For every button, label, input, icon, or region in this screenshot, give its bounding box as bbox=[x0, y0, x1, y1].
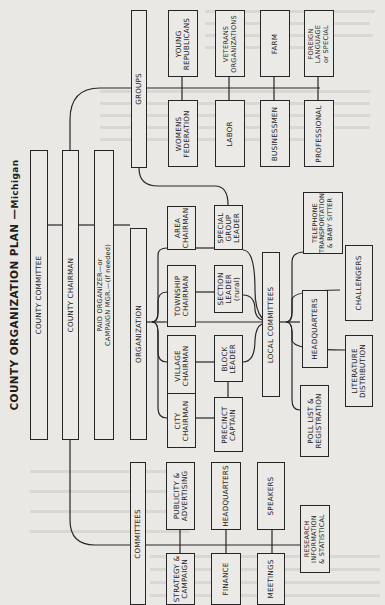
local-challengers-box: CHALLENGERS bbox=[345, 245, 373, 321]
county-chairman-label: COUNTY CHAIRMAN bbox=[67, 258, 75, 332]
chart-title: COUNTY ORGANIZATION PLAN —Michigan bbox=[8, 159, 20, 410]
organization-label: ORGANIZATION bbox=[135, 305, 143, 363]
township-chairman-box: TOWNSHIP CHAIRMAN bbox=[167, 265, 196, 327]
precinct-captain-box: PRECINCT CAPTAIN bbox=[214, 397, 243, 452]
group-label: WOMENS FEDERATION bbox=[175, 110, 191, 157]
city-chairman-box: CITY CHAIRMAN bbox=[167, 393, 196, 448]
chairman-label: AREA CHAIRMAN bbox=[174, 208, 190, 249]
group-professional: PROFESSIONAL bbox=[304, 100, 334, 167]
local-committees-box: LOCAL COMMITTEES bbox=[262, 252, 280, 397]
county-committee-box: COUNTY COMMITTEE bbox=[30, 150, 48, 440]
group-businessmen: BUSINESSMEN bbox=[260, 100, 290, 167]
committee-finance: FINANCE bbox=[211, 553, 241, 605]
block-leader-box: BLOCK LEADER bbox=[214, 335, 243, 382]
groups-box: GROUPS bbox=[131, 10, 147, 168]
local-literature-box: LITERATURE DISTRIBUTION bbox=[345, 335, 373, 407]
group-label: BUSINESSMEN bbox=[271, 106, 279, 160]
leader-label: PRECINCT CAPTAIN bbox=[221, 406, 237, 443]
group-label: VETERANS ORGANIZATIONS bbox=[222, 15, 238, 73]
group-label: YOUNG REPUBLICANS bbox=[175, 17, 191, 69]
section-leader-box: SECTION LEADER (rural) bbox=[214, 265, 243, 313]
local-poll-list-box: POLL LIST & REGISTRATION bbox=[300, 385, 329, 457]
chairman-label: CITY CHAIRMAN bbox=[174, 400, 190, 441]
area-chairman-box: AREA CHAIRMAN bbox=[167, 206, 196, 250]
local-committees-label: LOCAL COMMITTEES bbox=[267, 286, 275, 362]
committee-publicity: PUBLICITY & ADVERTISING bbox=[166, 462, 195, 530]
group-young-republicans: YOUNG REPUBLICANS bbox=[168, 10, 198, 77]
committee-label: STRATEGY & CAMPAIGN bbox=[173, 556, 189, 602]
local-item-label: HEADQUARTERS bbox=[311, 298, 319, 360]
local-item-label: LITERATURE DISTRIBUTION bbox=[351, 344, 367, 398]
leader-label: SPECIAL GROUP LEADER bbox=[217, 212, 241, 243]
group-farm: FARM bbox=[260, 10, 290, 77]
organization-box: ORGANIZATION bbox=[130, 228, 147, 440]
local-telephone-box: TELEPHONE TRANSPORTATION & BABY SITTER bbox=[303, 192, 343, 254]
group-womens-federation: WOMENS FEDERATION bbox=[168, 100, 198, 167]
committee-research: RESEARCH INFORMATION & STATISTICAL bbox=[300, 505, 330, 573]
committee-label: FINANCE bbox=[222, 563, 230, 596]
group-labor: LABOR bbox=[215, 100, 245, 167]
committee-label: HEADQUARTERS bbox=[222, 465, 230, 527]
local-item-label: TELEPHONE TRANSPORTATION & BABY SITTER bbox=[312, 193, 334, 253]
leader-label: SECTION LEADER (rural) bbox=[217, 272, 241, 305]
special-group-leader-box: SPECIAL GROUP LEADER bbox=[214, 205, 243, 250]
title-state: Michigan bbox=[10, 159, 20, 208]
committees-box: COMMITTEES bbox=[130, 462, 146, 605]
title-main: COUNTY ORGANIZATION PLAN bbox=[8, 223, 20, 410]
paid-organizer-box: PAID ORGANIZER—or CAMPAIGN MGR.—(if need… bbox=[94, 150, 114, 440]
chairman-label: VILLAGE CHAIRMAN bbox=[174, 346, 190, 387]
county-committee-label: COUNTY COMMITTEE bbox=[35, 256, 43, 335]
village-chairman-box: VILLAGE CHAIRMAN bbox=[167, 335, 196, 397]
committee-meetings: MEETINGS bbox=[257, 553, 285, 605]
local-headquarters-box: HEADQUARTERS bbox=[302, 290, 328, 368]
groups-label: GROUPS bbox=[135, 73, 143, 105]
committees-label: COMMITTEES bbox=[134, 509, 142, 559]
committee-label: SPEAKERS bbox=[267, 477, 275, 516]
committee-label: PUBLICITY & ADVERTISING bbox=[173, 471, 189, 522]
paid-organizer-label: PAID ORGANIZER—or CAMPAIGN MGR.—(if need… bbox=[97, 244, 112, 346]
group-foreign-language: FOREIGN LANGUAGE or SPECIAL bbox=[304, 10, 334, 77]
committee-label: RESEARCH INFORMATION & STATISTICAL bbox=[304, 514, 326, 564]
chairman-label: TOWNSHIP CHAIRMAN bbox=[174, 276, 190, 317]
title-dash: — bbox=[8, 208, 20, 219]
committee-strategy: STRATEGY & CAMPAIGN bbox=[166, 553, 195, 605]
county-chairman-box: COUNTY CHAIRMAN bbox=[62, 150, 79, 440]
group-label: FARM bbox=[271, 33, 279, 53]
committee-headquarters: HEADQUARTERS bbox=[211, 462, 241, 530]
group-label: FOREIGN LANGUAGE or SPECIAL bbox=[308, 24, 330, 62]
group-label: PROFESSIONAL bbox=[315, 105, 323, 162]
group-veterans-organizations: VETERANS ORGANIZATIONS bbox=[215, 10, 245, 77]
committee-label: MEETINGS bbox=[267, 560, 275, 599]
local-item-label: CHALLENGERS bbox=[355, 255, 363, 310]
local-item-label: POLL LIST & REGISTRATION bbox=[307, 393, 323, 448]
committee-speakers: SPEAKERS bbox=[257, 462, 285, 530]
group-label: LABOR bbox=[226, 121, 234, 147]
leader-label: BLOCK LEADER bbox=[221, 344, 237, 374]
